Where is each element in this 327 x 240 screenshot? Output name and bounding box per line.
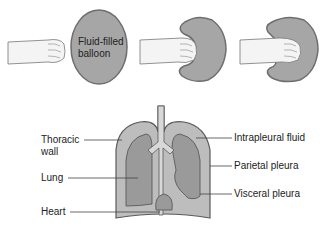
label-parietal-pleura: Parietal pleura bbox=[234, 160, 298, 172]
fist-icon-3 bbox=[240, 38, 301, 64]
label-lung: Lung bbox=[41, 172, 63, 184]
label-thoracic-wall-line1: Thoracic bbox=[41, 134, 79, 146]
label-visceral-pleura: Visceral pleura bbox=[234, 188, 300, 200]
label-intrapleural-fluid: Intrapleural fluid bbox=[234, 132, 305, 144]
balloon-label-line1: Fluid-filled bbox=[78, 36, 124, 48]
label-heart: Heart bbox=[41, 206, 65, 218]
fist-icon-2 bbox=[140, 38, 197, 64]
balloon-label-line2: balloon bbox=[78, 48, 110, 60]
fist-icon-1 bbox=[8, 40, 65, 65]
lung-diagram bbox=[116, 106, 210, 218]
label-thoracic-wall-line2: wall bbox=[41, 146, 58, 158]
